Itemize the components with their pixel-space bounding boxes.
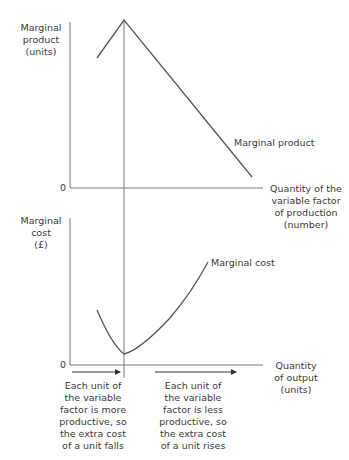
note-line: of a unit falls (58, 440, 128, 452)
bottom-origin-label: 0 (60, 359, 66, 371)
note-line: the variable (58, 392, 128, 404)
note-line: Each unit of (158, 380, 228, 392)
note-line: factor is less (158, 404, 228, 416)
top-y-axis-label: Marginal product (units) (16, 22, 66, 58)
label-line: (£) (18, 239, 64, 251)
left-annotation: Each unit of the variable factor is more… (58, 380, 128, 452)
note-line: productive, so (58, 416, 128, 428)
top-x-axis-label: Quantity of the variable factor of produ… (266, 183, 346, 231)
label-line: Marginal (18, 215, 64, 227)
note-line: Each unit of (58, 380, 128, 392)
label-line: variable factor (266, 195, 346, 207)
marginal-product-label: Marginal product (234, 137, 314, 149)
right-annotation: Each unit of the variable factor is less… (158, 380, 228, 452)
label-line: of production (266, 207, 346, 219)
note-line: factor is more (58, 404, 128, 416)
marginal-product-curve (97, 20, 252, 177)
label-line: (units) (16, 46, 66, 58)
note-line: the extra cost (58, 428, 128, 440)
note-line: productive, so (158, 416, 228, 428)
label-line: product (16, 34, 66, 46)
note-line: the variable (158, 392, 228, 404)
label-line: (number) (266, 219, 346, 231)
label-line: of output (266, 372, 326, 384)
label-line: (units) (266, 384, 326, 396)
note-line: of a unit rises (158, 440, 228, 452)
label-line: Quantity of the (266, 183, 346, 195)
label-line: cost (18, 227, 64, 239)
marginal-cost-label: Marginal cost (211, 257, 275, 269)
note-line: the extra cost (158, 428, 228, 440)
top-origin-label: 0 (60, 182, 66, 194)
bottom-y-axis-label: Marginal cost (£) (18, 215, 64, 251)
bottom-x-axis-label: Quantity of output (units) (266, 360, 326, 396)
label-line: Quantity (266, 360, 326, 372)
label-line: Marginal (16, 22, 66, 34)
marginal-cost-curve (97, 262, 208, 354)
